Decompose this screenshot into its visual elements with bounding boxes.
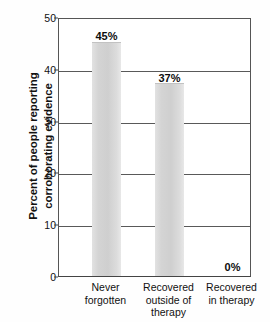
bar-value-label-recovered-in-therapy: 0%	[211, 261, 254, 273]
y-tick-label-0: 0	[36, 271, 56, 283]
bar-recovered-outside-therapy[interactable]	[155, 83, 184, 276]
bar-never-forgotten[interactable]	[92, 42, 121, 276]
x-category-recovered-in-therapy-line-2: in therapy	[193, 294, 270, 307]
bar-chart-figure: Percent of people reporting corroboratin…	[0, 0, 270, 322]
bar-value-label-recovered-outside-therapy: 37%	[148, 72, 191, 84]
plot-area: 45% 37% 0%	[58, 18, 251, 277]
x-category-recovered-in-therapy: Recovered in therapy	[193, 281, 270, 306]
y-axis-tick-labels: 50 40 30 20 10 0	[36, 0, 56, 322]
x-category-recovered-outside-therapy-line-3: therapy	[130, 306, 207, 319]
x-category-recovered-in-therapy-line-1: Recovered	[193, 281, 270, 294]
y-tick-label-10: 10	[36, 219, 56, 231]
bar-value-label-never-forgotten: 45%	[85, 30, 128, 42]
y-tick-label-20: 20	[36, 167, 56, 179]
y-tick-label-30: 30	[36, 116, 56, 128]
x-axis-category-labels: Never forgotten Recovered outside of the…	[58, 281, 251, 322]
y-tick-label-40: 40	[36, 64, 56, 76]
y-tick-label-50: 50	[36, 12, 56, 24]
